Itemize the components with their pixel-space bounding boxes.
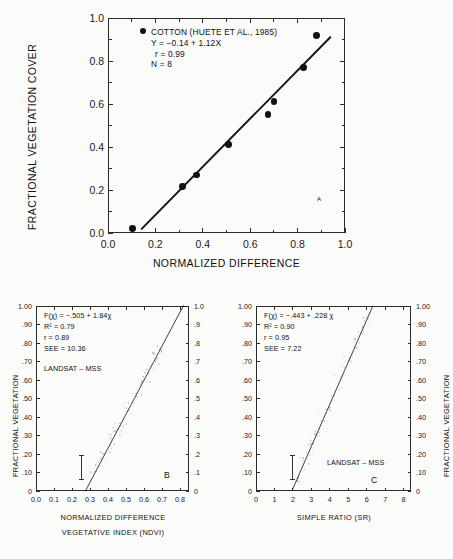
error-bar-c (292, 455, 293, 479)
error-bar-cap-top-c (290, 455, 295, 456)
panel-a: FRACTIONAL VEGETATION COVER NORMALIZED D… (0, 0, 453, 280)
panel-c: FRACTIONAL VEGETATION SIMPLE RATIO (SR) … (226, 285, 453, 559)
data-point-a (313, 32, 320, 39)
error-bar-cap-top-b (79, 455, 84, 456)
error-bar-cap-bottom-c (290, 479, 295, 480)
fit-line-layer (0, 285, 226, 559)
panel-b: FRACTIONAL VEGETATION NORMALIZED DIFFERE… (0, 285, 226, 559)
error-bar-b (81, 455, 82, 479)
fit-line-layer (0, 0, 453, 280)
regression-line-b (85, 305, 183, 491)
fit-line-layer (226, 285, 453, 559)
error-bar-cap-bottom-b (79, 479, 84, 480)
data-point-a (300, 64, 307, 71)
regression-line-c (292, 306, 373, 491)
figure-container: FRACTIONAL VEGETATION COVER NORMALIZED D… (0, 0, 453, 559)
